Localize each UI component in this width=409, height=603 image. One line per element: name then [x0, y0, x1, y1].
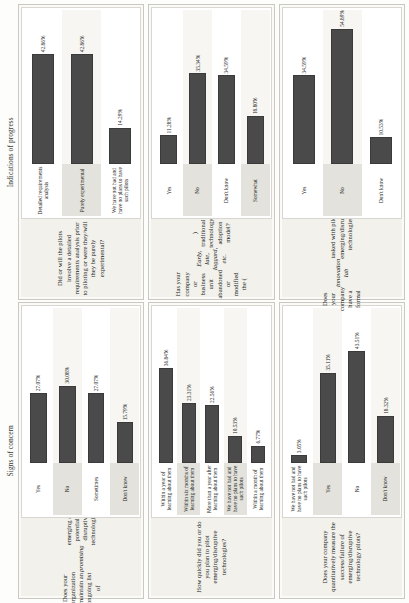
bar-track: 54.89% [323, 10, 361, 165]
bar-row: Within a year of learning about them36.8… [154, 309, 177, 516]
bar-track: 34.59% [212, 10, 241, 165]
bar-track: 42.86% [62, 10, 100, 165]
bar-value-label: 54.89% [339, 10, 345, 27]
category-label: Yes [24, 463, 53, 515]
bar-value-label: 22.56% [209, 386, 215, 403]
bar-track: 43.51% [342, 309, 371, 464]
bar-value-label: 27.07% [35, 375, 41, 392]
bar-track: 23.31% [177, 309, 200, 464]
bar-row: No30.08% [53, 309, 82, 516]
category-label: No [53, 463, 82, 515]
chart-question-title: Has your company or business unit abando… [151, 220, 271, 298]
bar [32, 54, 54, 164]
chart-panel-quantitative-measure: Does your company quantitatively measure… [279, 303, 405, 600]
bar-track: 35.34% [183, 10, 212, 165]
bar-rows: Yes11.28%No35.34%Don't know34.59%Somewha… [154, 10, 269, 217]
chart-question-title: Does your company have a formal innovati… [282, 220, 402, 298]
bar [160, 135, 177, 164]
bar-track: 15.79% [110, 309, 139, 464]
bar [71, 54, 93, 164]
category-label: Don't know [110, 463, 139, 515]
chart-panel-ongoing-list: Does your organization maintain an ongoi… [18, 303, 144, 600]
bar [370, 137, 392, 164]
category-label: Within a year of learning about them [154, 463, 177, 515]
bar-track: 10.53% [224, 309, 247, 464]
bar-value-label: 10.53% [378, 119, 384, 136]
bar-value-label: 35.11% [325, 354, 331, 370]
chart-question-title: Does your organization maintain an ongoi… [21, 518, 141, 596]
bar [159, 368, 172, 463]
bar [291, 455, 308, 463]
bar-track: 35.11% [313, 309, 342, 464]
chart-plot-area: Yes11.28%No35.34%Don't know34.59%Somewha… [151, 7, 271, 220]
bar-value-label: 23.31% [186, 384, 192, 401]
section-title: Indications of progress [6, 4, 15, 301]
bar-row: Yes34.59% [285, 10, 323, 217]
chart-plot-area: Yes34.59%No54.89%Don't know10.53% [282, 7, 402, 220]
bar-row: Detailed requirements analysis42.86% [24, 10, 62, 217]
bar-value-label: 11.28% [166, 117, 172, 133]
bar-track: 22.56% [200, 309, 223, 464]
category-label: Purely experimental [62, 165, 100, 217]
bar-row: Somewhat18.80% [241, 10, 270, 217]
report-page: Signs of concernDoes your organization m… [0, 0, 409, 603]
category-label: Don't know [371, 463, 400, 515]
bar [251, 446, 264, 463]
category-label: No [183, 165, 212, 217]
category-label: Yes [154, 165, 183, 217]
bar [59, 386, 76, 463]
bar-track: 18.80% [241, 10, 270, 165]
section-signs-of-concern: Signs of concernDoes your organization m… [6, 303, 405, 600]
bar [88, 393, 105, 463]
chart-panel-group: Does your organization maintain an ongoi… [18, 303, 405, 600]
chart-panel-group: Did or will the pilots involve a detaile… [18, 4, 405, 301]
bar-row: Within six months of learning about them… [177, 309, 200, 516]
bar [293, 75, 315, 164]
bar-rows: Yes34.59%No54.89%Don't know10.53% [285, 10, 400, 217]
bar [117, 422, 134, 463]
bar-track: 36.84% [154, 309, 177, 464]
category-label: Yes [285, 165, 323, 217]
chart-plot-area: Within a year of learning about them36.8… [151, 306, 271, 519]
bar-row: Purely experimental42.86% [62, 10, 100, 217]
category-label: Don't know [362, 165, 400, 217]
bar-row: No43.51% [342, 309, 371, 516]
bar-row: We have not had and have no plans to hav… [224, 309, 247, 516]
bar-value-label: 34.59% [223, 57, 229, 74]
category-label: More than a year after learning about th… [200, 463, 223, 515]
bar-row: No54.89% [323, 10, 361, 217]
bar-row: We have not had and have no plans to hav… [101, 10, 139, 217]
bar [218, 75, 235, 164]
bar-row: Yes27.07% [24, 309, 53, 516]
scanned-page-frame: Signs of concernDoes your organization m… [0, 0, 409, 603]
bar-track: 34.59% [285, 10, 323, 165]
bar-track: 18.32% [371, 309, 400, 464]
bar-value-label: 36.84% [163, 350, 169, 367]
bar-row: We have not had and have no plans to hav… [285, 309, 314, 516]
bar-rows: We have not had and have no plans to hav… [285, 309, 400, 516]
bar-row: Don't know15.79% [110, 309, 139, 516]
bar-track: 14.29% [101, 10, 139, 165]
chart-plot-area: We have not had and have no plans to hav… [282, 306, 402, 519]
bar [182, 403, 195, 463]
section-title: Signs of concern [6, 303, 15, 600]
chart-question-title: Did or will the pilots involve a detaile… [21, 220, 141, 298]
chart-panel-requirements-analysis: Did or will the pilots involve a detaile… [18, 4, 144, 301]
bar-rows: Detailed requirements analysis42.86%Pure… [24, 10, 139, 217]
bar-value-label: 30.08% [64, 367, 70, 384]
bar-track: 30.08% [53, 309, 82, 464]
bar-row: Sometimes27.07% [82, 309, 111, 516]
bar-row: More than a year after learning about th… [200, 309, 223, 516]
category-label: Don't know [212, 165, 241, 217]
bar-value-label: 15.79% [122, 404, 128, 421]
bar-track: 42.86% [24, 10, 62, 165]
category-label: Yes [313, 463, 342, 515]
bar-value-label: 18.32% [383, 397, 389, 414]
bar [205, 405, 218, 463]
bar-track: 11.28% [154, 10, 183, 165]
bar-row: Yes11.28% [154, 10, 183, 217]
bar-value-label: 10.53% [232, 417, 238, 434]
bar [348, 351, 365, 463]
bar-track: 6.77% [247, 309, 270, 464]
category-label: Detailed requirements analysis [24, 165, 62, 217]
